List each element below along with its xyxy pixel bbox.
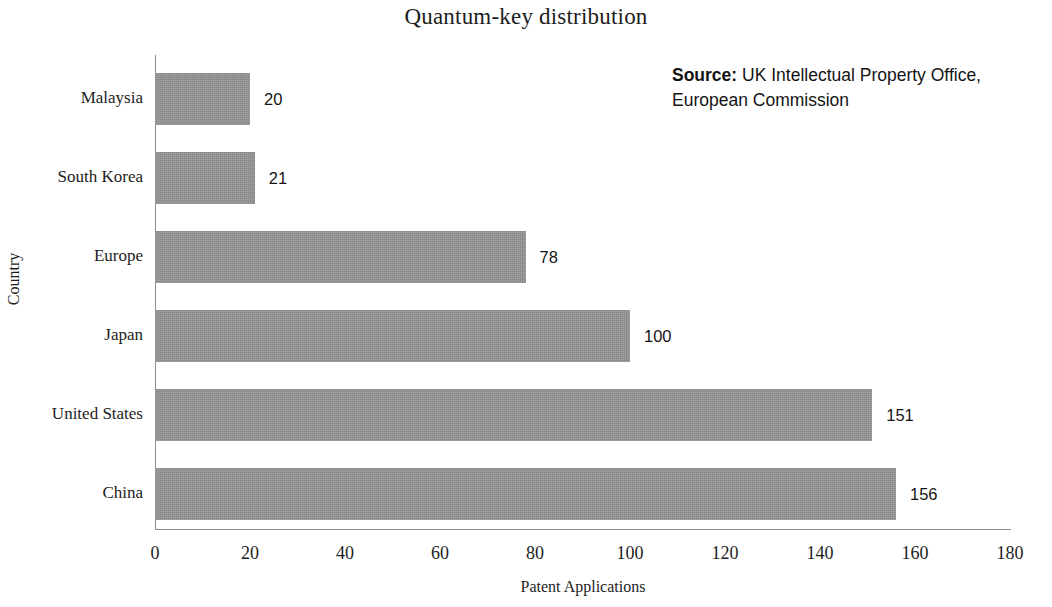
bar-row: 151 bbox=[155, 389, 1052, 441]
bar-value-label: 20 bbox=[264, 90, 282, 109]
x-tick-label: 140 bbox=[790, 543, 850, 564]
category-label: Japan bbox=[0, 325, 143, 345]
chart-title: Quantum-key distribution bbox=[0, 4, 1052, 30]
category-label: Malaysia bbox=[0, 88, 143, 108]
bar[interactable] bbox=[155, 152, 255, 204]
y-axis-title: Country bbox=[5, 219, 23, 339]
bar-value-label: 156 bbox=[910, 485, 938, 504]
x-tick-label: 180 bbox=[980, 543, 1040, 564]
bar-value-label: 151 bbox=[886, 406, 914, 425]
category-label: China bbox=[0, 483, 143, 503]
x-tick-label: 80 bbox=[505, 543, 565, 564]
bar-chart: Quantum-key distribution Source: UK Inte… bbox=[0, 0, 1052, 607]
x-axis-line bbox=[155, 529, 1011, 530]
bar[interactable] bbox=[155, 468, 896, 520]
bar-value-label: 21 bbox=[269, 169, 287, 188]
category-label: South Korea bbox=[0, 167, 143, 187]
bar[interactable] bbox=[155, 389, 872, 441]
x-tick-label: 20 bbox=[220, 543, 280, 564]
bar-row: 100 bbox=[155, 310, 1052, 362]
x-tick-label: 40 bbox=[315, 543, 375, 564]
bar-value-label: 78 bbox=[540, 248, 558, 267]
x-axis-title: Patent Applications bbox=[155, 578, 1011, 596]
bar-row: 78 bbox=[155, 231, 1052, 283]
bar-row: 20 bbox=[155, 73, 1052, 125]
bar[interactable] bbox=[155, 73, 250, 125]
category-label: United States bbox=[0, 404, 143, 424]
plot-area bbox=[155, 55, 1010, 529]
x-tick-label: 100 bbox=[600, 543, 660, 564]
bar-row: 21 bbox=[155, 152, 1052, 204]
x-tick-label: 0 bbox=[125, 543, 185, 564]
bar-value-label: 100 bbox=[644, 327, 672, 346]
x-tick-label: 120 bbox=[695, 543, 755, 564]
category-label: Europe bbox=[0, 246, 143, 266]
x-tick-label: 160 bbox=[885, 543, 945, 564]
x-tick-label: 60 bbox=[410, 543, 470, 564]
bar[interactable] bbox=[155, 310, 630, 362]
bar-row: 156 bbox=[155, 468, 1052, 520]
bar[interactable] bbox=[155, 231, 526, 283]
